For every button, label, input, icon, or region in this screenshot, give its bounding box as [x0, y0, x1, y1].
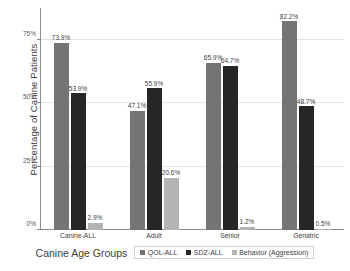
- legend-label: QOL-ALL: [148, 249, 178, 256]
- bar-value-label: 20.6%: [162, 170, 180, 177]
- bar-group: 73.9%53.9%2.9%: [40, 8, 116, 230]
- bar[interactable]: 20.6%: [164, 178, 179, 230]
- x-tick-label: Canine-ALL: [40, 232, 116, 239]
- bar-groups: 73.9%53.9%2.9%47.1%55.9%20.6%65.9%64.7%1…: [40, 8, 344, 230]
- bar-group: 47.1%55.9%20.6%: [116, 8, 192, 230]
- bar-slot: 53.9%: [71, 8, 86, 230]
- x-tick-label: Senior: [192, 232, 268, 239]
- bar-slot: 65.9%: [206, 8, 221, 230]
- bar-slot: 55.9%: [147, 8, 162, 230]
- bar[interactable]: 53.9%: [71, 93, 86, 230]
- bar-value-label: 47.1%: [128, 103, 146, 110]
- bar-slot: 0.5%: [316, 8, 331, 230]
- y-tick-label: 75%: [23, 29, 36, 36]
- bar-value-label: 64.7%: [221, 58, 239, 65]
- y-tick-label: 0%: [27, 220, 36, 227]
- bar[interactable]: 82.2%: [282, 21, 297, 230]
- legend-label: Behavior (Aggression): [239, 249, 308, 256]
- bar-slot: 47.1%: [130, 8, 145, 230]
- chart-footer: Canine Age Groups QOL-ALLSDZ-ALLBehavior…: [0, 246, 350, 259]
- bar-group: 65.9%64.7%1.2%: [192, 8, 268, 230]
- bar-slot: 64.7%: [223, 8, 238, 230]
- bar[interactable]: 48.7%: [299, 106, 314, 230]
- bar[interactable]: 73.9%: [54, 43, 69, 230]
- bar[interactable]: 47.1%: [130, 111, 145, 230]
- plot-area: 0%25%50%75% 73.9%53.9%2.9%47.1%55.9%20.6…: [40, 8, 344, 230]
- x-axis-title: Canine Age Groups: [36, 247, 128, 259]
- legend-label: SDZ-ALL: [194, 249, 223, 256]
- bar[interactable]: 2.9%: [88, 223, 103, 230]
- bar-value-label: 82.2%: [280, 14, 298, 21]
- legend-item[interactable]: QOL-ALL: [140, 249, 177, 256]
- bar-value-label: 48.7%: [297, 99, 315, 106]
- bar-slot: 82.2%: [282, 8, 297, 230]
- bar-group: 82.2%48.7%0.5%: [268, 8, 344, 230]
- x-axis-tick-labels: Canine-ALLAdultSeniorGeriatric: [40, 232, 344, 239]
- bar[interactable]: 0.5%: [316, 229, 331, 230]
- bar-value-label: 1.2%: [240, 219, 255, 226]
- bar[interactable]: 64.7%: [223, 66, 238, 230]
- bar-chart: Percentage of Canine Patients 0%25%50%75…: [0, 0, 350, 271]
- bar[interactable]: 65.9%: [206, 63, 221, 230]
- bar[interactable]: 55.9%: [147, 88, 162, 230]
- legend-item[interactable]: Behavior (Aggression): [232, 249, 309, 256]
- legend: QOL-ALLSDZ-ALLBehavior (Aggression): [134, 246, 314, 259]
- bar-slot: 1.2%: [240, 8, 255, 230]
- bar-slot: 2.9%: [88, 8, 103, 230]
- legend-swatch-icon: [140, 250, 145, 255]
- bar-value-label: 53.9%: [69, 86, 87, 93]
- bar-value-label: 73.9%: [52, 35, 70, 42]
- y-axis-title: Percentage of Canine Patients: [28, 15, 39, 205]
- x-tick-label: Adult: [116, 232, 192, 239]
- x-tick-label: Geriatric: [268, 232, 344, 239]
- legend-swatch-icon: [186, 250, 191, 255]
- y-tick-label: 25%: [23, 156, 36, 163]
- bar-value-label: 0.5%: [316, 221, 331, 228]
- y-tick-label: 50%: [23, 93, 36, 100]
- legend-item[interactable]: SDZ-ALL: [186, 249, 222, 256]
- bar[interactable]: 1.2%: [240, 227, 255, 230]
- bar-value-label: 2.9%: [88, 215, 103, 222]
- bar-value-label: 55.9%: [145, 81, 163, 88]
- bar-slot: 48.7%: [299, 8, 314, 230]
- legend-swatch-icon: [232, 250, 237, 255]
- bar-value-label: 65.9%: [204, 55, 222, 62]
- bar-slot: 73.9%: [54, 8, 69, 230]
- bar-slot: 20.6%: [164, 8, 179, 230]
